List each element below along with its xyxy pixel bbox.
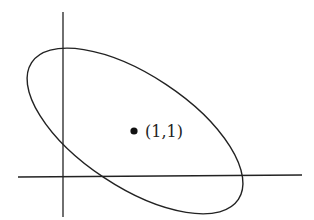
center-label: (1,1): [145, 122, 183, 141]
ellipse-diagram: (1,1): [0, 0, 314, 220]
rotated-ellipse: [1, 16, 270, 220]
center-point: [130, 127, 137, 134]
x-axis: [18, 175, 302, 177]
